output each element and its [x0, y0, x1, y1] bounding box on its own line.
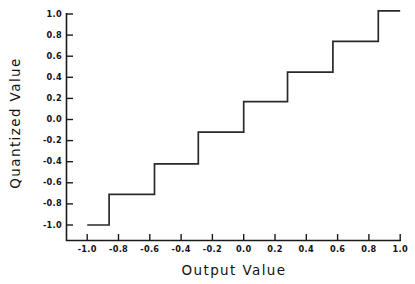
x-tick-label: -0.4: [172, 244, 191, 254]
y-tick-label: -0.6: [43, 177, 62, 187]
x-tick-label: -0.6: [140, 244, 159, 254]
y-tick-label: -0.2: [43, 135, 62, 145]
y-tick-label: 0.8: [47, 30, 62, 40]
staircase-series: [87, 11, 400, 225]
y-axis-ticks: [67, 14, 74, 225]
x-tick-label: 0.6: [330, 244, 345, 254]
chart-figure: Quantized Value Output Value 1.0 0.8 0.6: [0, 0, 415, 284]
y-tick-label: -0.8: [43, 198, 62, 208]
x-tick-label: 0.4: [299, 244, 314, 254]
x-tick-label: -0.2: [203, 244, 222, 254]
x-axis-tick-labels: -1.0 -0.8 -0.6 -0.4 -0.2 0.0 0.2 0.4 0.6…: [78, 244, 408, 254]
axis-lines: [67, 13, 402, 241]
y-axis-tick-labels: 1.0 0.8 0.6 0.4 0.2 0.0 -0.2 -0.4 -0.6 -…: [43, 9, 62, 230]
x-axis-title: Output Value: [181, 262, 286, 278]
y-tick-label: 1.0: [47, 9, 62, 19]
y-tick-label: -1.0: [43, 220, 62, 230]
y-tick-label: -0.4: [43, 156, 62, 166]
y-tick-label: 0.2: [47, 93, 62, 103]
x-tick-label: 0.8: [361, 244, 376, 254]
y-tick-label: 0.6: [47, 51, 62, 61]
x-axis-ticks: [87, 234, 400, 241]
axis-spines: [67, 13, 402, 241]
quantizer-staircase-chart: Quantized Value Output Value 1.0 0.8 0.6: [0, 0, 415, 284]
x-tick-label: -0.8: [109, 244, 128, 254]
y-axis-title: Quantized Value: [7, 57, 23, 188]
x-tick-label: 1.0: [392, 244, 407, 254]
y-tick-label: 0.0: [47, 114, 62, 124]
x-tick-label: 0.0: [236, 244, 251, 254]
x-tick-label: -1.0: [78, 244, 97, 254]
y-tick-label: 0.4: [47, 72, 62, 82]
x-tick-label: 0.2: [267, 244, 282, 254]
